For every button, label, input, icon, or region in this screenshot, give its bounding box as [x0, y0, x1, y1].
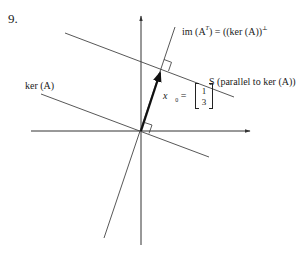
image-transpose-label: im (AT) = ((ker (A))⊥: [182, 25, 268, 37]
right-angle-mark-origin: [145, 123, 153, 134]
problem-number: 9.: [8, 12, 18, 25]
vector-x0: [141, 73, 160, 131]
image-transpose-prefix: im (A: [182, 26, 206, 37]
perp-superscript: ⊥: [262, 25, 268, 31]
diagram-canvas: [0, 0, 300, 257]
S-label: S (parallel to ker (A)): [209, 77, 296, 87]
vector-component-1: 1: [196, 86, 212, 96]
vector-name: x⃗: [163, 90, 175, 101]
vector-equals: =: [181, 90, 187, 101]
kernel-label: ker (A): [25, 81, 54, 91]
vector-matrix: 1 3: [195, 83, 213, 109]
vector-label: x⃗0 =: [163, 91, 186, 103]
image-transpose-suffix: ) = ((ker (A)): [209, 26, 262, 37]
right-angle-mark-S: [164, 60, 172, 72]
image-transpose-line: [104, 27, 175, 238]
vector-subscript: 0: [175, 97, 178, 103]
vector-component-2: 3: [196, 97, 212, 107]
kernel-line: [41, 94, 209, 157]
